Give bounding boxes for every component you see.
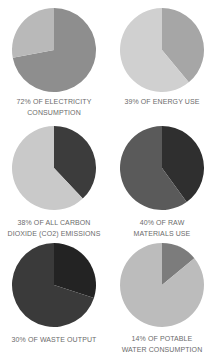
label-line-2: DIOXIDE (CO2) EMISSIONS	[0, 228, 108, 239]
label-line-1: 72% OF ELECTRICITY	[0, 96, 108, 107]
chart-electricity: 72% OF ELECTRICITY CONSUMPTION	[0, 0, 108, 120]
chart-potable-water: 14% OF POTABLE WATER CONSUMPTION	[108, 240, 216, 360]
label-line-1: 30% OF WASTE OUTPUT	[0, 334, 108, 345]
chart-raw-materials: 40% OF RAW MATERIALS USE	[108, 120, 216, 240]
chart-label-co2: 38% OF ALL CARBON DIOXIDE (CO2) EMISSION…	[0, 217, 108, 239]
pie-slice-remainder	[12, 8, 54, 58]
label-line-1: 14% OF POTABLE	[108, 333, 216, 344]
pie-chart-potable-water	[119, 242, 205, 328]
chart-co2: 38% OF ALL CARBON DIOXIDE (CO2) EMISSION…	[0, 120, 108, 240]
pie-chart-raw-materials	[119, 125, 205, 211]
label-line-1: 38% OF ALL CARBON	[0, 217, 108, 228]
pie-chart-electricity	[11, 7, 97, 93]
label-line-1: 40% OF RAW	[108, 217, 216, 228]
label-line-1: 39% OF ENERGY USE	[108, 96, 216, 107]
label-line-2: CONSUMPTION	[0, 107, 108, 118]
chart-label-energy: 39% OF ENERGY USE	[108, 96, 216, 107]
label-line-2: MATERIALS USE	[108, 228, 216, 239]
pie-chart-waste	[11, 242, 97, 328]
pie-chart-co2	[11, 125, 97, 211]
chart-label-raw-materials: 40% OF RAW MATERIALS USE	[108, 217, 216, 239]
chart-label-potable-water: 14% OF POTABLE WATER CONSUMPTION	[108, 333, 216, 355]
chart-label-electricity: 72% OF ELECTRICITY CONSUMPTION	[0, 96, 108, 118]
pie-chart-energy	[119, 7, 205, 93]
chart-label-waste: 30% OF WASTE OUTPUT	[0, 334, 108, 345]
label-line-2: WATER CONSUMPTION	[108, 344, 216, 355]
chart-waste: 30% OF WASTE OUTPUT	[0, 240, 108, 360]
chart-energy: 39% OF ENERGY USE	[108, 0, 216, 120]
